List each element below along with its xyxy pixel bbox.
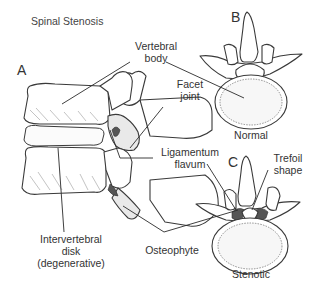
label-trefoil-shape: Trefoil shape: [268, 152, 308, 176]
label-intervertebral-disk-line1: Intervertebral: [32, 233, 110, 245]
label-stenotic: Stenotic: [226, 268, 276, 280]
panel-label-c: C: [228, 154, 238, 170]
label-trefoil-shape-line1: Trefoil: [268, 152, 308, 164]
label-facet-joint-line1: Facet: [170, 78, 210, 90]
panel-label-a: A: [17, 62, 26, 78]
label-ligamentum-flavum: Ligamentum flavum: [156, 146, 224, 170]
label-ligamentum-flavum-line2: flavum: [156, 158, 224, 170]
label-intervertebral-disk-line2: disk: [32, 245, 110, 257]
label-intervertebral-disk: Intervertebral disk (degenerative): [32, 233, 110, 269]
label-osteophyte: Osteophyte: [140, 244, 204, 256]
label-vertebral-body-line2: body: [123, 52, 189, 64]
spinal-stenosis-diagram: Spinal Stenosis: [0, 0, 318, 281]
normal-vertebra-axial: [200, 12, 302, 129]
label-facet-joint-line2: joint: [170, 90, 210, 102]
label-trefoil-shape-line2: shape: [268, 164, 308, 176]
label-facet-joint: Facet joint: [170, 78, 210, 102]
label-vertebral-body: Vertebral body: [123, 40, 189, 64]
label-normal: Normal: [228, 129, 274, 141]
panel-label-b: B: [231, 9, 240, 25]
label-vertebral-body-line1: Vertebral: [123, 40, 189, 52]
label-ligamentum-flavum-line1: Ligamentum: [156, 146, 224, 158]
label-intervertebral-disk-line3: (degenerative): [32, 257, 110, 269]
